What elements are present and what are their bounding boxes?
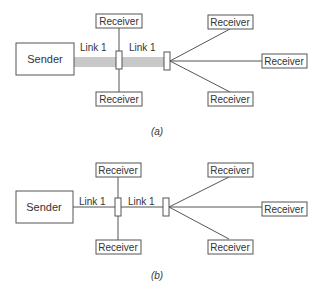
splitter-b-1: [115, 198, 121, 216]
link-label-a-1: Link 1: [80, 42, 107, 53]
receiver-label-b-top-right: Receiver: [210, 165, 250, 176]
branch-line-a-bottom-right: [170, 61, 230, 92]
caption-a: (a): [151, 126, 163, 137]
receiver-label-b-bottom-right: Receiver: [210, 242, 250, 253]
receiver-label-b-middle-right: Receiver: [264, 204, 304, 215]
link-label-b-1: Link 1: [79, 196, 106, 207]
link-label-b-2: Link 1: [128, 196, 155, 207]
receiver-label-b-bottom: Receiver: [98, 242, 138, 253]
receiver-label-b-top: Receiver: [98, 165, 138, 176]
caption-b: (b): [151, 270, 163, 281]
multicast-diagram-figure: Sender Link 1 Link 1 Receiver Receiver R…: [0, 0, 319, 288]
receiver-label-a-top: Receiver: [99, 16, 139, 27]
diagram-a: Sender Link 1 Link 1 Receiver Receiver R…: [16, 14, 307, 137]
receiver-label-a-bottom-right: Receiver: [210, 94, 250, 105]
sender-label-b: Sender: [26, 201, 62, 213]
branch-line-a-top-right: [170, 29, 230, 61]
splitter-a-2: [164, 52, 170, 70]
receiver-label-a-bottom: Receiver: [99, 94, 139, 105]
branch-line-b-bottom-right: [169, 207, 229, 239]
splitter-a-1: [116, 51, 122, 69]
link-bundle-a-2: [122, 58, 164, 66]
receiver-label-a-middle-right: Receiver: [264, 56, 304, 67]
receiver-label-a-top-right: Receiver: [210, 17, 250, 28]
link-label-a-2: Link 1: [129, 42, 156, 53]
link-bundle-a-1: [74, 58, 116, 66]
diagram-b: Sender Link 1 Link 1 Receiver Receiver R…: [16, 163, 307, 281]
branch-line-b-top-right: [169, 177, 229, 207]
sender-label-a: Sender: [27, 53, 63, 65]
splitter-b-2: [163, 198, 169, 216]
